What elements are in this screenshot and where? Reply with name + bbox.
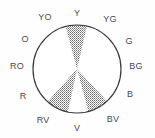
hue-label-yo: YO: [38, 13, 51, 22]
hue-label-rv: RV: [37, 116, 50, 125]
hue-label-r: R: [20, 92, 27, 101]
hue-label-yg: YG: [103, 15, 116, 24]
hue-label-bg: BG: [129, 62, 142, 71]
hue-label-o: O: [21, 35, 28, 44]
color-wheel-figure: YYGGBGBBVVRVRROOYO: [0, 0, 155, 138]
hue-label-v: V: [74, 124, 80, 133]
hue-label-ro: RO: [10, 62, 24, 71]
hue-label-y: Y: [74, 9, 80, 18]
hue-label-bv: BV: [107, 115, 119, 124]
hue-label-g: G: [125, 37, 132, 46]
hue-label-b: B: [127, 90, 133, 99]
